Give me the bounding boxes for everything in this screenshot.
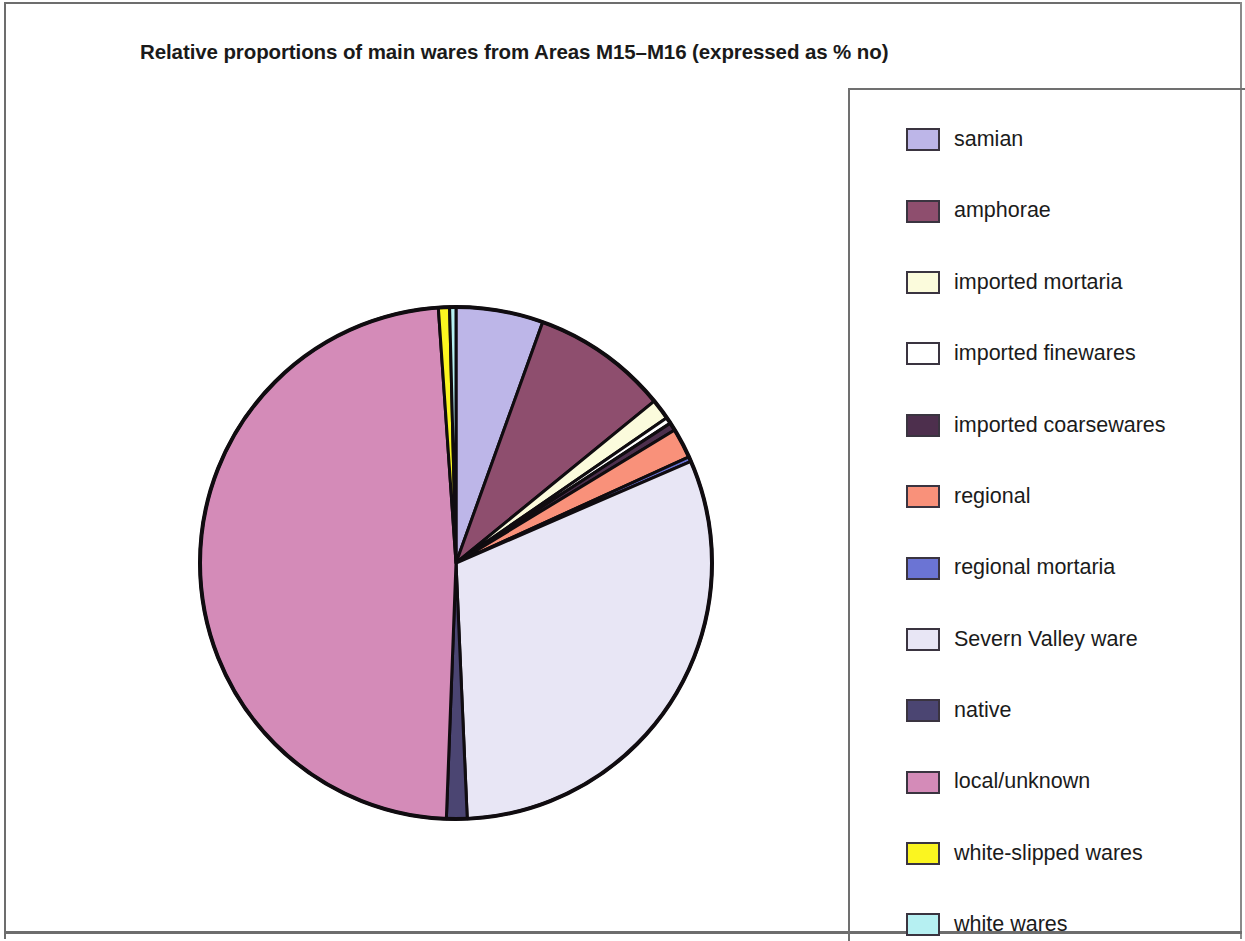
legend-item-label: amphorae [954,200,1051,222]
legend-item-label: white wares [954,914,1068,936]
legend-item-label: local/unknown [954,771,1090,793]
legend-item-label: native [954,700,1011,722]
legend: samianamphoraeimported mortariaimported … [848,88,1245,941]
legend-swatch-icon [906,485,940,508]
chart-figure: Relative proportions of main wares from … [0,0,1245,941]
pie-chart-svg [190,297,730,837]
legend-swatch-icon [906,128,940,151]
legend-item-label: imported coarsewares [954,415,1166,437]
legend-item: imported coarsewares [906,390,1245,461]
legend-item-label: regional [954,486,1031,508]
legend-item: native [906,675,1245,746]
legend-item: samian [906,104,1245,175]
legend-item-label: samian [954,129,1023,151]
legend-swatch-icon [906,200,940,223]
legend-item-label: regional mortaria [954,557,1115,579]
frame-border-top [4,2,1242,4]
legend-item: white wares [906,889,1245,941]
legend-swatch-icon [906,271,940,294]
legend-item: imported finewares [906,318,1245,389]
legend-item: local/unknown [906,747,1245,818]
legend-item: regional [906,461,1245,532]
legend-swatch-icon [906,628,940,651]
legend-swatch-icon [906,557,940,580]
legend-swatch-icon [906,913,940,936]
legend-swatch-icon [906,699,940,722]
legend-item-label: imported mortaria [954,272,1122,294]
legend-swatch-icon [906,771,940,794]
legend-item-label: white-slipped wares [954,843,1143,865]
chart-title: Relative proportions of main wares from … [140,40,888,64]
legend-item: Severn Valley ware [906,604,1245,675]
legend-item: regional mortaria [906,532,1245,603]
legend-item: white-slipped wares [906,818,1245,889]
frame-border-left [4,2,6,939]
pie-chart [190,297,730,837]
pie-slice-group [200,307,712,819]
legend-item-label: Severn Valley ware [954,629,1138,651]
legend-items: samianamphoraeimported mortariaimported … [906,104,1245,941]
legend-swatch-icon [906,842,940,865]
legend-swatch-icon [906,414,940,437]
legend-item: amphorae [906,175,1245,246]
legend-item: imported mortaria [906,247,1245,318]
legend-item-label: imported finewares [954,343,1136,365]
legend-swatch-icon [906,342,940,365]
pie-slice [200,308,456,819]
